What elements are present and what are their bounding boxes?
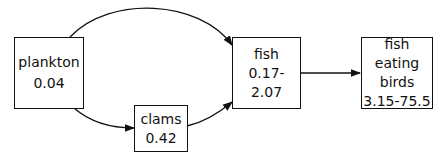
edge-plankton-clams — [74, 108, 134, 128]
edge-plankton-fish — [70, 8, 232, 45]
node-fish-label: fish — [254, 45, 279, 64]
edge-clams-fish — [187, 102, 232, 126]
node-fish: fish 0.17-2.07 — [232, 37, 301, 109]
node-plankton-value: 0.04 — [33, 74, 64, 93]
node-birds-label-line2: birds — [380, 73, 414, 92]
node-birds-value: 3.15-75.5 — [363, 92, 430, 111]
node-clams-label: clams — [140, 110, 181, 129]
node-plankton-label: plankton — [18, 53, 79, 72]
node-birds-label-line1: fish eating — [362, 35, 432, 73]
node-clams: clams 0.42 — [134, 105, 188, 152]
node-fish-value: 0.17-2.07 — [233, 64, 300, 102]
node-birds: fish eating birds 3.15-75.5 — [361, 37, 433, 109]
node-clams-value: 0.42 — [145, 129, 176, 148]
node-plankton: plankton 0.04 — [14, 37, 84, 109]
